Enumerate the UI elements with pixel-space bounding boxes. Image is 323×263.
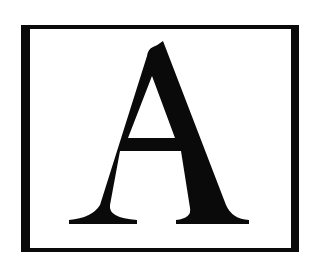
letter-a-glyph [0, 0, 323, 263]
